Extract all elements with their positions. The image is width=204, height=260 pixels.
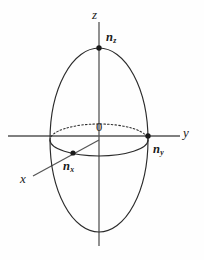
n-y-base: n (153, 142, 160, 156)
n-z-label: nz (106, 31, 116, 45)
n-y-subscript: y (160, 148, 163, 157)
n-x-base: n (63, 159, 70, 173)
point-n-y (145, 133, 150, 138)
point-n-z (96, 45, 101, 50)
n-z-base: n (106, 30, 113, 44)
n-z-subscript: z (113, 36, 116, 45)
origin-label: 0 (96, 121, 102, 134)
y-axis-label: y (183, 126, 189, 139)
n-x-subscript: x (70, 165, 74, 174)
point-n-x (70, 150, 75, 155)
index-ellipsoid-figure: z nz y ny 0 nx x (0, 0, 204, 260)
n-y-label: ny (153, 143, 164, 157)
z-axis-label: z (92, 8, 97, 21)
n-x-label: nx (63, 160, 74, 174)
x-axis-label: x (20, 172, 26, 185)
